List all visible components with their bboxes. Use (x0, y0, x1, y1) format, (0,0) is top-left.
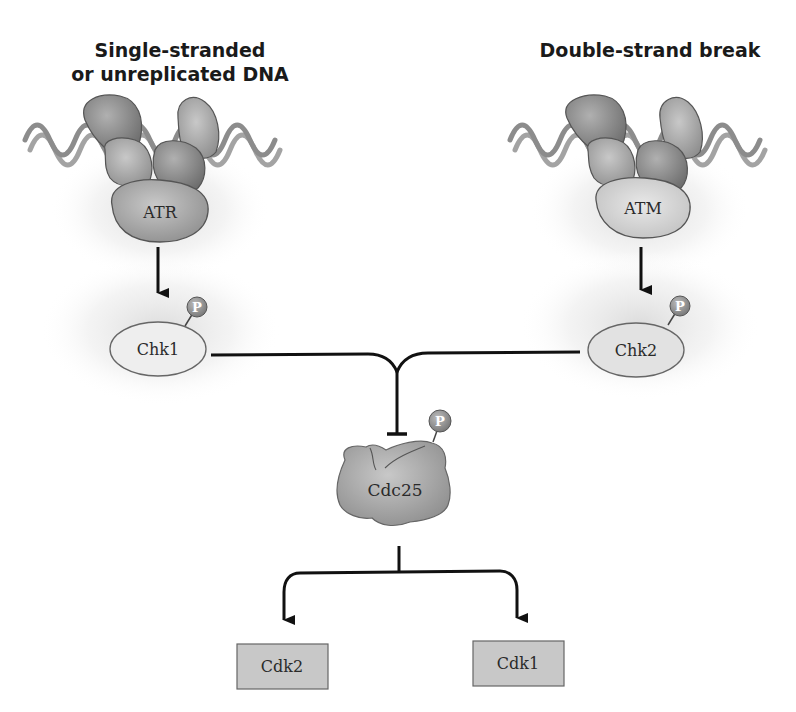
cdk2-node: Cdk2 (237, 644, 328, 689)
chk2-label: Chk2 (615, 341, 657, 360)
atm-label: ATM (623, 199, 662, 218)
cdc25-label: Cdc25 (367, 480, 422, 500)
cdk1-node: Cdk1 (473, 641, 564, 686)
chk1-label: Chk1 (137, 340, 179, 359)
cdk1-label: Cdk1 (497, 654, 539, 673)
pathway-diagram: ATR ATM P Chk1 P Chk2 (0, 0, 796, 712)
cdc25-node: P Cdc25 (337, 410, 451, 525)
arrow-cdc25-to-cdk1 (399, 571, 517, 618)
phospho-chk2-label: P (675, 299, 685, 314)
atr-node: ATR (112, 180, 209, 242)
atr-label: ATR (142, 203, 177, 222)
cdk2-label: Cdk2 (261, 657, 303, 676)
arrow-cdc25-to-cdk2 (284, 572, 399, 620)
phospho-chk1-label: P (192, 300, 202, 315)
phospho-cdc25-label: P (435, 414, 445, 429)
